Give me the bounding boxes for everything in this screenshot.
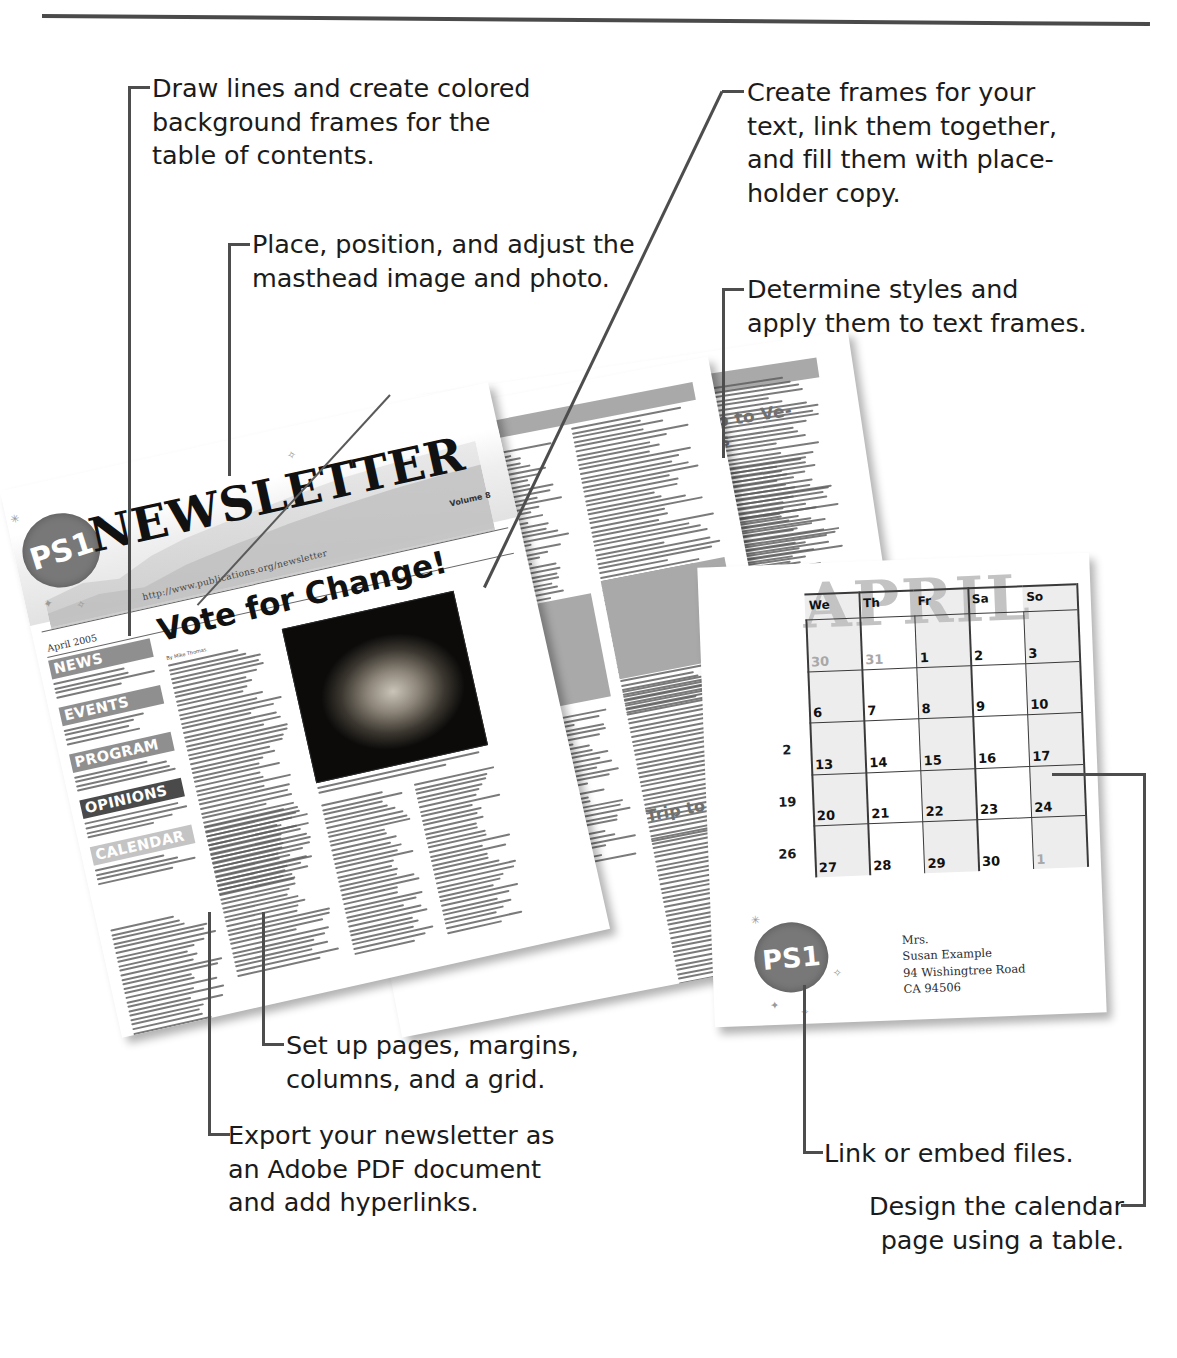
leader-place-image-tick [228,243,250,246]
ps1-logo-stamp-calendar: PS1 [751,919,831,995]
callout-create-frames: Create frames for your text, link them t… [747,76,1167,211]
calendar-date-cell[interactable]: 16 [972,714,1028,768]
leader-set-up-pages-tick [262,1043,284,1046]
callout-draw-lines: Draw lines and create colored background… [152,72,592,173]
ps1-logo-label-calendar: PS1 [761,939,822,975]
calendar-date-cell[interactable]: 2 [968,611,1024,665]
calendar-date-cell[interactable]: 1 [914,613,970,667]
calendar-date-cell[interactable]: 8 [916,665,972,719]
calendar-day-header: Fr [913,587,968,615]
calendar-day-header: Sa [967,585,1022,613]
ps1-logo-label: PS1 [25,524,97,577]
calendar-day-header: Th [859,589,914,617]
calendar-date-cell[interactable]: 20 [811,772,867,826]
calendar-address-block: Mrs. Susan Example 94 Wishingtree Road C… [901,927,1026,997]
calendar-date-cell[interactable]: 7 [862,667,918,721]
leader-draw-lines-tick [128,86,150,89]
calendar-date-cell[interactable]: 23 [974,766,1030,820]
leader-export-pdf-tick [208,1133,230,1136]
callout-design-calendar: Design the calendar page using a table. [824,1190,1124,1257]
calendar-date-cell[interactable]: 17 [1027,712,1083,766]
calendar-edge-number-1: 19 [778,794,797,810]
calendar-date-cell[interactable]: 30 [805,617,861,671]
leader-export-pdf-stem [208,912,211,1136]
leader-link-embed-tick [803,1151,823,1154]
leader-determine-styles-tick [722,288,744,291]
leader-create-frames-tick [722,90,744,93]
leader-set-up-pages-stem [262,912,265,1046]
calendar-date-cell[interactable]: 31 [860,615,916,669]
calendar-table: WeThFrSaSo303112367891013141516172021222… [804,583,1087,877]
calendar-date-cell[interactable]: 29 [922,820,978,874]
calendar-day-header: We [804,592,859,620]
calendar-day-header: So [1022,583,1077,611]
calendar-edge-number-2: 26 [778,846,797,862]
calendar-date-cell[interactable]: 28 [868,822,924,876]
callout-place-image: Place, position, and adjust the masthead… [252,228,702,295]
calendar-date-cell[interactable]: 6 [807,669,863,723]
calendar-date-cell[interactable]: 10 [1025,661,1081,715]
calendar-date-cell[interactable]: 14 [864,719,920,773]
callout-set-up-pages: Set up pages, margins, columns, and a gr… [286,1029,706,1096]
calendar-date-cell[interactable]: 15 [918,716,974,770]
calendar-date-cell[interactable]: 27 [813,824,869,878]
document-calendar-page: APRIL WeThFrSaSo303112367891013141516172… [697,553,1106,1028]
leader-draw-lines-stem [128,86,131,636]
leader-determine-styles-stem [722,288,725,458]
leader-place-image-stem [228,243,231,476]
callout-determine-styles: Determine styles and apply them to text … [747,273,1167,340]
newsletter-photo [282,591,488,784]
calendar-date-cell[interactable]: 30 [976,817,1032,871]
callout-link-embed: Link or embed files. [824,1137,1164,1171]
top-divider-rule [42,14,1150,26]
calendar-date-cell[interactable]: 1 [1031,815,1087,869]
illustration-stage: EVENTS A Trip to Ve- nus NEWS Trip to Ve… [0,0,1177,1358]
leader-design-calendar-tick [1052,773,1146,776]
calendar-date-cell[interactable]: 3 [1023,609,1079,663]
calendar-date-cell[interactable]: 22 [920,768,976,822]
calendar-date-cell[interactable]: 13 [809,721,865,775]
callout-export-pdf: Export your newsletter as an Adobe PDF d… [228,1119,648,1220]
calendar-edge-number-0: 2 [782,742,792,757]
calendar-date-cell[interactable]: 24 [1029,764,1085,818]
leader-design-calendar-end-tick [1121,1204,1146,1207]
leader-link-embed-stem [803,985,806,1154]
calendar-date-cell[interactable]: 9 [970,663,1026,717]
calendar-date-cell[interactable]: 21 [866,770,922,824]
